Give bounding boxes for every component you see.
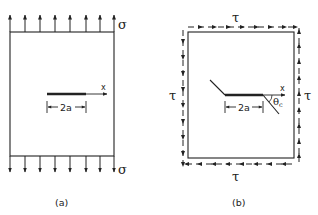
kink-angle-arc xyxy=(269,95,272,102)
sigma-top-label: σ xyxy=(118,17,127,32)
tau-left-label: τ xyxy=(169,88,176,103)
panel-a: σ σ x 2a (a) xyxy=(10,15,127,208)
kink-angle-label: θc xyxy=(273,96,283,109)
tension-arrows-bottom xyxy=(10,156,114,172)
x-axis-label-b: x xyxy=(280,84,285,93)
caption-b: (b) xyxy=(232,197,245,208)
crack-length-label-a: 2a xyxy=(60,102,72,113)
tau-bottom-label: τ xyxy=(232,169,239,184)
caption-a: (a) xyxy=(55,197,68,208)
shear-arrowheads-bottom xyxy=(184,162,286,166)
sigma-bottom-label: σ xyxy=(118,162,127,177)
x-axis-label-a: x xyxy=(101,83,106,92)
crack-length-label-b: 2a xyxy=(238,102,250,113)
panel-b: τ τ τ xyxy=(169,10,311,208)
tau-top-label: τ xyxy=(232,10,239,25)
tau-right-label: τ xyxy=(304,88,311,103)
tension-arrows-top xyxy=(10,15,114,32)
shear-arrowheads-left xyxy=(181,39,185,167)
figure-canvas: σ σ x 2a (a) τ xyxy=(0,0,318,215)
